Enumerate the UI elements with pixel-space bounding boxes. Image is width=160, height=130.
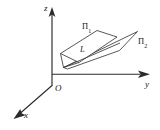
plane-1-label: Π1 <box>82 22 91 33</box>
z-axis-label: z <box>44 4 48 13</box>
plane-2-label: Π2 <box>138 37 147 48</box>
y-axis-label: y <box>145 80 149 89</box>
plane-1-label-subscript: 1 <box>88 28 91 34</box>
x-axis <box>14 86 53 120</box>
plane-2-label-subscript: 2 <box>144 43 147 49</box>
plane-1-left-edge <box>61 54 64 68</box>
intersection-line-label: L <box>80 45 85 54</box>
y-axis <box>52 70 150 78</box>
x-axis-label: x <box>24 111 28 120</box>
origin-label: O <box>55 84 62 93</box>
geometry-figure: z y x O Π1 Π2 L <box>0 0 160 130</box>
x-axis-line <box>21 86 53 114</box>
